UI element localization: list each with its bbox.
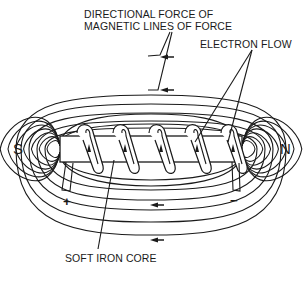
- electron-flow-label: ELECTRON FLOW: [200, 38, 292, 50]
- south-pole-label: S: [13, 140, 23, 157]
- field-direction-arrow: [150, 203, 158, 208]
- pole-fan-line: [47, 141, 60, 158]
- directional-force-label-line1: DIRECTIONAL FORCE OF: [84, 8, 232, 20]
- directional-force-label: DIRECTIONAL FORCE OF MAGNETIC LINES OF F…: [84, 8, 232, 32]
- positive-terminal-label: +: [63, 196, 71, 208]
- positive-lead-wire: [62, 162, 73, 191]
- soft-iron-core-label: SOFT IRON CORE: [65, 252, 157, 264]
- directional-force-pointer: [148, 32, 172, 90]
- negative-terminal-label: −: [230, 195, 238, 207]
- north-pole-label: N: [280, 140, 291, 157]
- directional-force-label-line2: MAGNETIC LINES OF FORCE: [84, 20, 232, 32]
- field-direction-arrow: [160, 88, 168, 93]
- field-direction-arrow: [150, 238, 158, 243]
